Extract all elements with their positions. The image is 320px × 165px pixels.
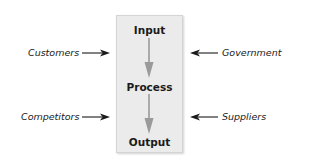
arrow-down-icon [143, 38, 155, 78]
arrow-down-icon [143, 94, 155, 134]
label-customers: Customers [28, 47, 79, 59]
label-competitors: Competitors [21, 111, 79, 123]
stage-input: Input [116, 24, 183, 36]
stage-process: Process [116, 81, 183, 93]
arrow-right-icon [82, 49, 110, 57]
arrow-left-icon [190, 113, 218, 121]
arrow-right-icon [82, 113, 110, 121]
stage-output: Output [116, 136, 183, 148]
label-government: Government [222, 47, 281, 59]
label-suppliers: Suppliers [222, 111, 266, 123]
arrow-left-icon [190, 49, 218, 57]
